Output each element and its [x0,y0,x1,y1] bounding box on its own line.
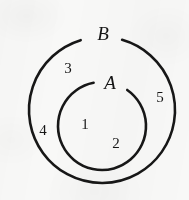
set-label-B: B [97,24,109,43]
region-label-4: 4 [39,123,47,138]
set-label-A: A [104,73,116,92]
outer-circle-arc-B [29,40,175,183]
region-label-5: 5 [156,90,164,105]
set-diagram-figure: B A 1 2 3 4 5 [0,0,189,200]
inner-circle-arc-A [58,83,146,170]
region-label-1: 1 [81,117,89,132]
region-label-3: 3 [64,61,72,76]
region-label-2: 2 [112,136,120,151]
